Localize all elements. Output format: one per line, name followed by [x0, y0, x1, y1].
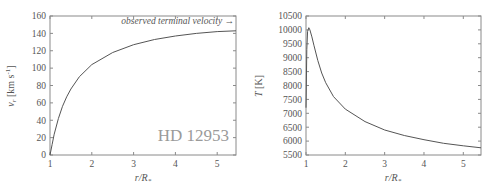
- x-tick-label: 3: [382, 159, 387, 169]
- y-tick-label: 10500: [278, 11, 302, 21]
- y-tick-label: 120: [32, 46, 47, 56]
- x-tick-label: 5: [215, 159, 220, 169]
- right-x-axis-label: r/R*: [385, 172, 402, 185]
- temperature-chart: 5500600065007000750080008500900095001000…: [253, 11, 481, 185]
- y-tick-label: 60: [37, 98, 47, 108]
- x-tick-label: 4: [422, 159, 427, 169]
- y-tick-label: 10000: [278, 25, 302, 35]
- temperature-curve: [306, 28, 481, 148]
- y-tick-label: 8500: [283, 67, 302, 77]
- y-tick-label: 20: [37, 133, 47, 143]
- x-tick-label: 2: [89, 159, 94, 169]
- right-plot-frame: [306, 16, 481, 155]
- y-tick-label: 0: [41, 150, 46, 160]
- left-x-axis: 12345: [48, 16, 220, 169]
- x-tick-label: 5: [461, 159, 466, 169]
- terminal-velocity-annotation: observed terminal velocity →: [121, 16, 234, 26]
- right-x-axis: 12345: [304, 16, 466, 169]
- x-tick-label: 1: [304, 159, 309, 169]
- y-tick-label: 6500: [283, 123, 302, 133]
- y-tick-label: 7000: [283, 109, 302, 119]
- y-tick-label: 6000: [283, 136, 302, 146]
- right-y-axis: 5500600065007000750080008500900095001000…: [278, 11, 481, 160]
- velocity-chart: 020406080100120140160 12345 observed ter…: [4, 11, 236, 185]
- y-tick-label: 40: [37, 116, 47, 126]
- y-tick-label: 80: [37, 81, 47, 91]
- left-x-axis-label: r/R*: [135, 172, 152, 185]
- y-tick-label: 9500: [283, 39, 302, 49]
- y-tick-label: 160: [32, 11, 47, 21]
- y-tick-label: 140: [32, 29, 47, 39]
- y-tick-label: 9000: [283, 53, 302, 63]
- figure: 020406080100120140160 12345 observed ter…: [0, 0, 491, 190]
- y-tick-label: 5500: [283, 150, 302, 160]
- x-tick-label: 1: [48, 159, 53, 169]
- y-tick-label: 100: [32, 63, 47, 73]
- x-tick-label: 4: [173, 159, 178, 169]
- x-tick-label: 3: [131, 159, 136, 169]
- right-y-axis-label: T [K]: [253, 75, 264, 97]
- y-tick-label: 7500: [283, 95, 302, 105]
- star-name-label: HD 12953: [158, 126, 229, 145]
- y-tick-label: 8000: [283, 81, 302, 91]
- left-y-axis-label: vr [km s-1]: [4, 65, 18, 106]
- x-tick-label: 2: [343, 159, 348, 169]
